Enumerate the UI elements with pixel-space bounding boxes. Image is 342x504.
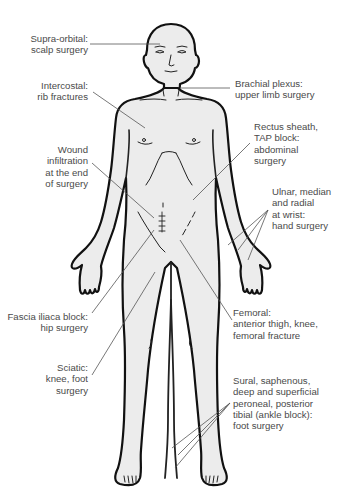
label-line: scalp surgery xyxy=(30,44,88,55)
label-rectus-sheath: Rectus sheath, TAP block: abdominal surg… xyxy=(254,121,318,166)
label-line: foot surgery xyxy=(233,420,319,431)
label-line: Intercostal: xyxy=(37,80,88,91)
label-line: Femoral: xyxy=(233,307,318,318)
label-line: Wound xyxy=(45,144,88,155)
label-line: Fascia iliaca block: xyxy=(7,311,88,322)
label-line: femoral fracture xyxy=(233,330,318,341)
label-line: deep and superficial xyxy=(233,386,319,397)
label-sciatic: Sciatic: knee, foot surgery xyxy=(46,362,88,396)
label-line: hand surgery xyxy=(272,220,331,231)
label-line: Sciatic: xyxy=(46,362,88,373)
label-intercostal: Intercostal: rib fractures xyxy=(37,80,88,103)
label-femoral: Femoral: anterior thigh, knee, femoral f… xyxy=(233,307,318,341)
label-line: infiltration xyxy=(45,155,88,166)
label-line: Supra-orbital: xyxy=(30,33,88,44)
label-wound-infiltration: Wound infiltration at the end of surgery xyxy=(45,144,88,189)
label-ankle-block: Sural, saphenous, deep and superficial p… xyxy=(233,375,319,431)
label-line: surgery xyxy=(254,155,318,166)
label-line: abdominal xyxy=(254,144,318,155)
label-line: Rectus sheath, xyxy=(254,121,318,132)
label-line: upper limb surgery xyxy=(235,89,314,100)
label-line: Ulnar, median xyxy=(272,186,331,197)
label-fascia-iliaca: Fascia iliaca block: hip surgery xyxy=(7,311,88,334)
label-line: at wrist: xyxy=(272,209,331,220)
inner-leg-line-right xyxy=(171,300,177,478)
label-supra-orbital: Supra-orbital: scalp surgery xyxy=(30,33,88,56)
label-line: TAP block: xyxy=(254,132,318,143)
label-line: and radial xyxy=(272,197,331,208)
label-line: of surgery xyxy=(45,178,88,189)
label-line: tibial (ankle block): xyxy=(233,409,319,420)
label-line: anterior thigh, knee, xyxy=(233,318,318,329)
inner-leg-line xyxy=(165,262,171,478)
label-line: at the end xyxy=(45,167,88,178)
label-line: rib fractures xyxy=(37,91,88,102)
label-line: hip surgery xyxy=(7,322,88,333)
label-line: surgery xyxy=(46,385,88,396)
label-line: knee, foot xyxy=(46,373,88,384)
label-line: peroneal, posterior xyxy=(233,398,319,409)
label-line: Brachial plexus: xyxy=(235,78,314,89)
label-line: Sural, saphenous, xyxy=(233,375,319,386)
head xyxy=(144,24,199,93)
label-wrist: Ulnar, median and radial at wrist: hand … xyxy=(272,186,331,231)
label-brachial-plexus: Brachial plexus: upper limb surgery xyxy=(235,78,314,101)
